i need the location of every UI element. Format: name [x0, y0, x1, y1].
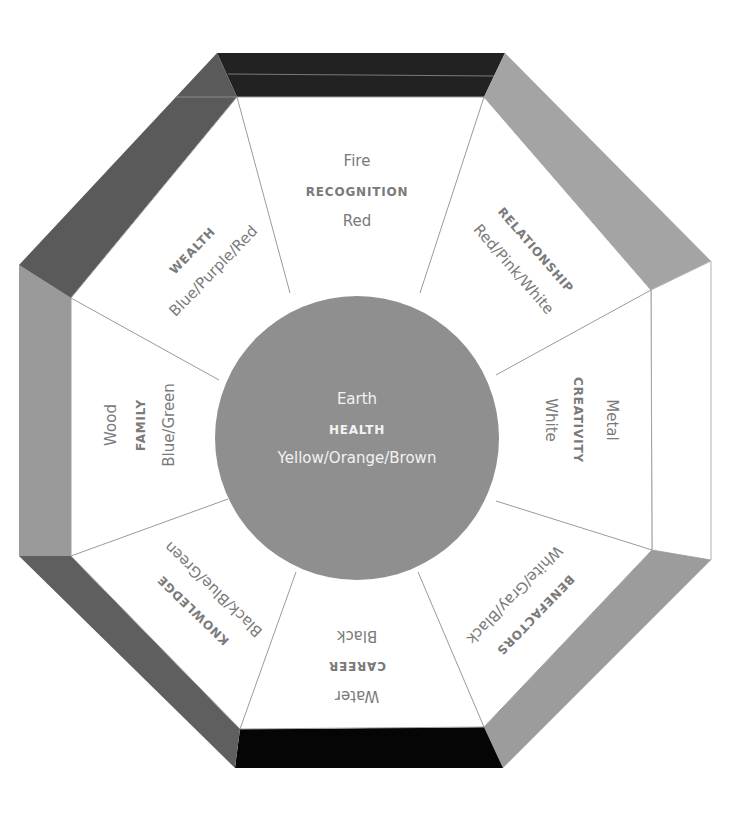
- band-left: [19, 265, 71, 556]
- sector-bottom-colors: Black: [336, 627, 377, 645]
- sector-right-colors: White: [542, 398, 560, 442]
- sector-left-element: Wood: [102, 404, 120, 446]
- center-colors: Yellow/Orange/Brown: [277, 449, 437, 467]
- sector-top-element: Fire: [344, 152, 371, 170]
- center-area: HEALTH: [329, 423, 385, 437]
- center-circle: [215, 296, 499, 580]
- sector-bottom-area: CAREER: [328, 659, 386, 673]
- sector-top-area: RECOGNITION: [306, 185, 409, 199]
- sector-right-area: CREATIVITY: [571, 377, 585, 463]
- sector-left-area: FAMILY: [134, 399, 148, 451]
- sector-left-colors: Blue/Green: [160, 383, 178, 467]
- bagua-diagram: Earth HEALTH Yellow/Orange/Brown Fire RE…: [0, 0, 748, 824]
- band-right: [651, 261, 711, 560]
- band-bottom: [235, 727, 503, 768]
- center-element: Earth: [337, 390, 377, 408]
- sector-right-element: Metal: [603, 399, 621, 440]
- sector-bottom-element: Water: [334, 687, 379, 705]
- sector-bottom: Water CAREER Black: [328, 627, 386, 705]
- sector-top-colors: Red: [343, 212, 372, 230]
